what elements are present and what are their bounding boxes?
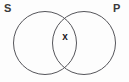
circle-subject-s — [14, 12, 77, 75]
intersection-x-mark: x — [59, 30, 71, 43]
set-label-s: S — [4, 3, 11, 14]
venn-diagram: S P x — [0, 0, 129, 82]
set-label-p: P — [113, 3, 120, 14]
circle-predicate-p — [53, 12, 116, 75]
